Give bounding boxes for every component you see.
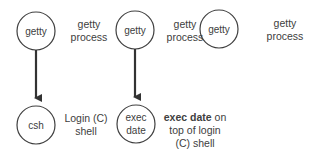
caption-line: shell [58, 125, 114, 138]
getty-process-caption-1: getty process [64, 18, 114, 44]
caption-line: getty [64, 18, 114, 31]
caption-line: getty [160, 18, 210, 31]
caption-line: getty [260, 17, 310, 30]
caption-line: exec date on [160, 111, 230, 124]
login-shell-caption: Login (C) shell [58, 112, 114, 138]
caption-line: top of login [160, 124, 230, 137]
exec-date-node-label-line1: exec [125, 112, 146, 123]
caption-line: (C) shell [160, 137, 230, 150]
exec-date-caption: exec date on top of login (C) shell [160, 111, 230, 150]
getty-node-2-label: getty [124, 25, 146, 36]
getty-node-3-label: getty [208, 24, 230, 35]
getty-node-2: getty [116, 11, 154, 49]
caption-line: process [160, 31, 210, 44]
getty-node-1: getty [17, 12, 55, 50]
exec-date-node: exec date [117, 105, 155, 143]
getty-process-caption-3: getty process [260, 17, 310, 43]
caption-bold-term: exec date [164, 111, 212, 123]
exec-date-node-label-line2: date [126, 125, 146, 136]
caption-line: Login (C) [58, 112, 114, 125]
csh-node-label: csh [28, 120, 44, 131]
getty-node-1-label: getty [25, 26, 47, 37]
caption-line: process [64, 31, 114, 44]
getty-process-caption-2: getty process [160, 18, 210, 44]
caption-line: process [260, 30, 310, 43]
csh-node: csh [17, 106, 55, 144]
caption-rest: on [212, 111, 227, 123]
